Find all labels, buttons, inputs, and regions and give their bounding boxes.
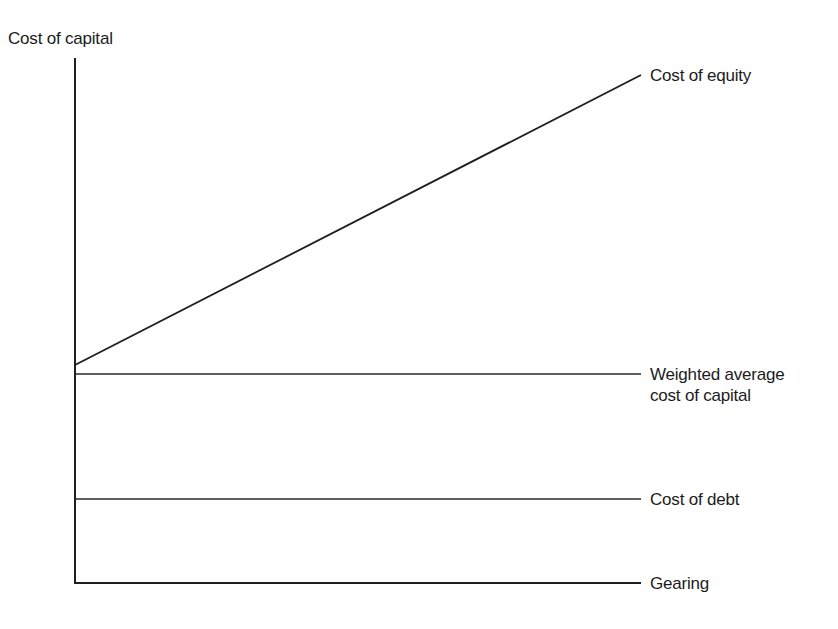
x-axis-label: Gearing <box>650 573 709 594</box>
cost-of-equity-line <box>75 75 641 365</box>
cost-of-debt-label: Cost of debt <box>650 489 739 510</box>
chart-plot <box>0 0 838 629</box>
cost-of-equity-label: Cost of equity <box>650 65 751 86</box>
wacc-label: Weighted average cost of capital <box>650 364 784 406</box>
y-axis-label: Cost of capital <box>8 28 113 49</box>
wacc-label-line1: Weighted average <box>650 364 784 385</box>
wacc-label-line2: cost of capital <box>650 385 784 406</box>
